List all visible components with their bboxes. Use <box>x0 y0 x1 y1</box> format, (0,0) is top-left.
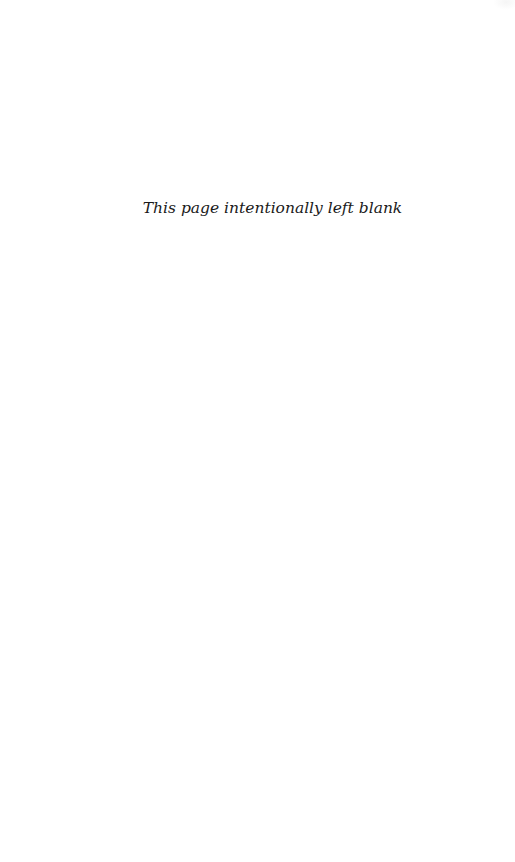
page-corner-shadow <box>493 0 515 10</box>
blank-page-notice: This page intentionally left blank <box>0 199 515 217</box>
document-page: This page intentionally left blank <box>0 0 515 862</box>
